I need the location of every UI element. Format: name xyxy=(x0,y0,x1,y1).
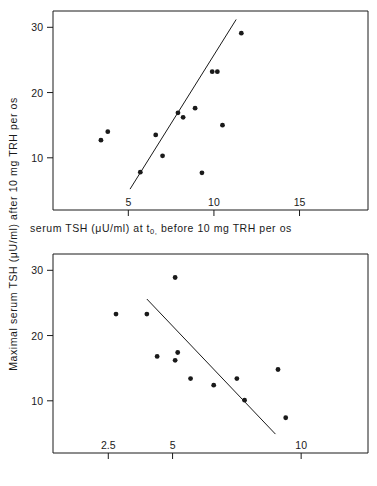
y-tick-label: 30 xyxy=(31,21,43,33)
data-point xyxy=(173,358,178,363)
data-point xyxy=(215,69,220,74)
data-point xyxy=(144,312,149,317)
panel-bottom: 1020302.5510 serum T4 I (μg/100 ml) at t… xyxy=(0,243,377,486)
y-tick-label: 10 xyxy=(31,152,43,164)
data-point xyxy=(160,153,165,158)
figure-root: Maximal serum TSH (μU/ml) after 10 mg TR… xyxy=(0,0,377,486)
scatter-plot-bottom: 1020302.5510 xyxy=(0,243,377,486)
scatter-plot-top: 10203051015 xyxy=(0,0,377,243)
x-tick-label: 10 xyxy=(208,196,220,208)
x-tick-label: 5 xyxy=(170,439,176,451)
x-tick-label: 5 xyxy=(125,196,131,208)
y-tick-label: 10 xyxy=(31,395,43,407)
x-axis-caption-top: serum TSH (μU/ml) at t0, before 10 mg TR… xyxy=(30,222,377,236)
y-tick-label: 20 xyxy=(31,87,43,99)
data-point xyxy=(210,69,215,74)
data-point xyxy=(138,170,143,175)
data-point xyxy=(176,110,181,115)
data-point xyxy=(181,115,186,120)
data-point xyxy=(155,354,160,359)
data-point xyxy=(99,138,104,143)
plot-frame xyxy=(53,11,368,210)
data-point xyxy=(188,376,193,381)
panel-top: 10203051015 serum TSH (μU/ml) at t0, bef… xyxy=(0,0,377,243)
data-point xyxy=(173,275,178,280)
data-point xyxy=(276,367,281,372)
data-point xyxy=(153,133,158,138)
data-point xyxy=(220,123,225,128)
regression-line xyxy=(130,19,236,189)
data-point xyxy=(200,170,205,175)
data-point xyxy=(175,350,180,355)
data-point xyxy=(242,398,247,403)
y-tick-label: 30 xyxy=(31,264,43,276)
x-tick-label: 15 xyxy=(294,196,306,208)
data-point xyxy=(211,383,216,388)
data-point xyxy=(234,376,239,381)
plot-frame xyxy=(53,254,368,453)
regression-line xyxy=(147,299,276,434)
caption-top-pre: serum TSH (μU/ml) at t xyxy=(30,222,150,234)
data-point xyxy=(114,312,119,317)
data-point xyxy=(105,129,110,134)
data-point xyxy=(193,106,198,111)
x-tick-label: 10 xyxy=(295,439,307,451)
caption-top-post: before 10 mg TRH per os xyxy=(157,222,291,234)
data-point xyxy=(239,31,244,36)
data-point xyxy=(283,415,288,420)
y-tick-label: 20 xyxy=(31,330,43,342)
x-tick-label: 2.5 xyxy=(101,439,116,451)
